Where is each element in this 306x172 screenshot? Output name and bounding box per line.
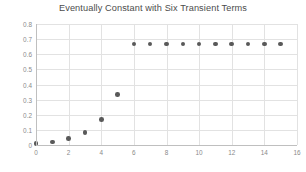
y-tick-label: 0.1 — [0, 126, 32, 133]
data-point — [99, 117, 104, 122]
y-tick-label: 0 — [0, 142, 32, 149]
x-tick-label: 14 — [252, 149, 276, 156]
y-tick-label: 0.3 — [0, 96, 32, 103]
y-tick-label: 0.4 — [0, 81, 32, 88]
x-tick-label: 2 — [57, 149, 81, 156]
gridline-vertical — [297, 24, 298, 145]
data-point — [83, 130, 88, 135]
data-point — [115, 92, 120, 97]
data-point — [50, 140, 55, 145]
y-tick-label: 0.2 — [0, 111, 32, 118]
chart-title: Eventually Constant with Six Transient T… — [0, 3, 306, 13]
scatter-chart: Eventually Constant with Six Transient T… — [0, 0, 306, 172]
data-point — [132, 42, 137, 47]
data-point — [197, 42, 202, 47]
data-point — [213, 42, 218, 47]
y-axis-line — [36, 24, 37, 145]
y-tick-label: 0.6 — [0, 51, 32, 58]
x-tick-label: 8 — [155, 149, 179, 156]
data-point — [229, 42, 234, 47]
gridline-vertical — [101, 24, 102, 145]
x-tick-label: 6 — [122, 149, 146, 156]
data-point — [164, 42, 169, 47]
x-axis-line — [36, 145, 297, 146]
y-tick-label: 0.8 — [0, 21, 32, 28]
x-tick-label: 12 — [220, 149, 244, 156]
data-point — [181, 42, 186, 47]
x-tick-label: 16 — [285, 149, 306, 156]
data-point — [278, 42, 283, 47]
plot-area — [36, 24, 297, 145]
x-tick-label: 4 — [89, 149, 113, 156]
data-point — [66, 136, 71, 141]
gridline-vertical — [69, 24, 70, 145]
y-tick-label: 0.5 — [0, 66, 32, 73]
data-point — [246, 42, 251, 47]
x-tick-label: 0 — [24, 149, 48, 156]
data-point — [148, 42, 153, 47]
data-point — [262, 42, 267, 47]
x-tick-label: 10 — [187, 149, 211, 156]
y-tick-label: 0.7 — [0, 36, 32, 43]
